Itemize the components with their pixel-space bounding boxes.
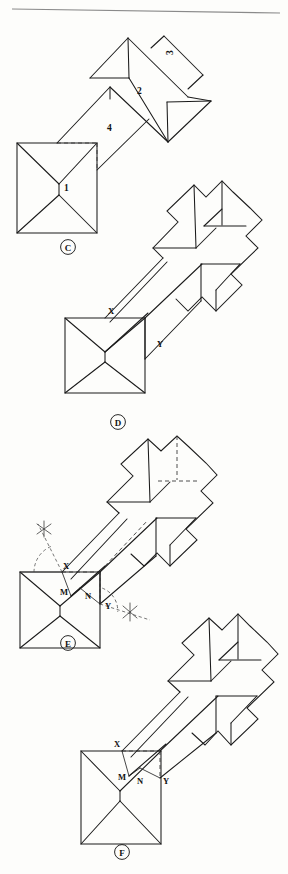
point-label-x: X [63, 561, 70, 571]
bisector-arc-x [34, 546, 52, 572]
figure-f-caption: F [115, 845, 130, 860]
diagonal-bottom-left [65, 362, 105, 393]
diagonal-top-left [17, 143, 59, 184]
diagonal-top-left [81, 751, 120, 791]
cross-outline-main [168, 614, 278, 745]
caption-letter: F [119, 848, 125, 858]
cross-inner-edge-i [216, 264, 240, 290]
box-top-left-edge [90, 38, 128, 78]
face-label-2: 2 [137, 86, 142, 96]
figure-e: X M N Y E [20, 436, 217, 650]
figure-f-square-base [81, 751, 161, 844]
figure-f-cross-solid [168, 614, 278, 745]
drawing-sheet: 1 2 3 4 C [0, 0, 288, 874]
figure-d-square-base [65, 318, 145, 393]
prism-mid-edge [160, 696, 218, 751]
box-inner-vertical [128, 38, 129, 78]
figure-d-cross-solid [153, 181, 262, 311]
technical-drawing-canvas: 1 2 3 4 C [0, 0, 288, 874]
point-label-y: Y [157, 339, 163, 349]
figure-c-tab [151, 36, 203, 89]
caption-letter: E [65, 639, 71, 649]
figure-c-caption: C [61, 240, 76, 255]
prism-upper-edge [122, 692, 180, 751]
diagonal-bottom-left [81, 801, 120, 844]
box-right-vertical [167, 102, 168, 142]
face-label-4: 4 [107, 123, 112, 133]
prism-upper-edge-inner [131, 697, 188, 757]
cross-outline-main [107, 436, 217, 566]
cross-inner-edge-b [148, 439, 150, 502]
prism-mid-edge [145, 264, 202, 318]
construction-at-x [20, 521, 62, 572]
point-label-m: M [118, 772, 126, 782]
face-label-3: 3 [165, 50, 175, 55]
diagonal-top-left [20, 572, 60, 606]
figure-f-prism [122, 692, 218, 778]
figure-e-cross-solid [105, 436, 217, 566]
diagonal-bottom-right [105, 362, 145, 393]
cross-hidden-diagonal [105, 520, 148, 566]
figure-c-square-base [17, 143, 97, 233]
diagonal-bottom-right [59, 195, 97, 233]
cross-inner-edge-f [204, 209, 222, 226]
cross-inner-edge-c [196, 228, 216, 248]
figure-f: X M N Y F [81, 614, 278, 859]
prism-upper-edge-inner [110, 262, 167, 322]
prism-inner-face [105, 313, 148, 352]
point-label-x: X [108, 306, 115, 316]
figure-c: 1 2 3 4 C [17, 36, 211, 254]
box-right-edge [188, 97, 211, 101]
diagonal-top-left [65, 318, 105, 352]
cross-inner-edge-i [170, 518, 196, 545]
cross-outline-main [153, 181, 262, 311]
figure-e-prism [62, 513, 157, 604]
figure-d-caption: D [111, 415, 126, 430]
point-label-n: N [85, 591, 92, 601]
figure-d-prism [105, 258, 202, 359]
point-label-n: N [137, 776, 144, 786]
cross-inner-edge-b [194, 185, 196, 248]
prism-edge-upper [57, 87, 110, 143]
cross-inner-edge-c [211, 661, 231, 681]
diagonal-top-right [59, 143, 97, 184]
cross-inner-edge-f [219, 642, 238, 660]
point-label-y: Y [105, 601, 111, 611]
prism-upper-edge-inner [71, 519, 127, 579]
figure-d: X Y D [65, 181, 262, 429]
prism-edge-lower [97, 119, 149, 170]
prism-upper-edge [62, 513, 119, 572]
point-label-m: M [60, 587, 68, 597]
caption-letter: C [65, 243, 72, 253]
cross-mark-x [37, 521, 51, 537]
box-bottom-edge [168, 101, 211, 142]
cross-inner-edge-i [231, 696, 257, 723]
prism-mid-edge [100, 518, 157, 572]
diagonal-bottom-left [17, 195, 59, 233]
cross-inner-edge-c [150, 482, 170, 502]
header-rule [12, 9, 280, 13]
face-label-1: 1 [64, 183, 69, 193]
diagonal-bottom-right [120, 801, 161, 844]
diagonal-bottom-left [20, 616, 60, 648]
point-label-y: Y [163, 776, 169, 786]
figure-e-square-base [20, 572, 100, 648]
tab-edge-a [151, 36, 164, 48]
point-label-x: X [114, 739, 121, 749]
prism-lower-edge [100, 556, 156, 604]
box-right-diagonal [167, 101, 211, 102]
caption-letter: D [115, 418, 122, 428]
cross-inner-edge-b [209, 618, 211, 681]
figure-c-connecting-prism [57, 87, 149, 170]
tab-edge-c [188, 75, 203, 89]
prism-lower-edge [160, 733, 216, 778]
figure-e-caption: E [61, 636, 76, 651]
